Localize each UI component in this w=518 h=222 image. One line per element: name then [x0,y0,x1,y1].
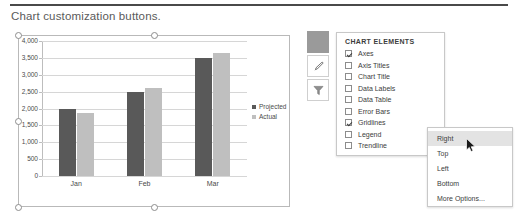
panel-title: CHART ELEMENTS [337,33,444,48]
submenu-item-bottom[interactable]: Bottom [428,176,512,191]
chart-element-item-data-table[interactable]: Data Table [345,94,444,106]
chart-element-label: Error Bars [358,108,390,115]
chart-element-item-axis-titles[interactable]: Axis Titles [345,60,444,72]
checkbox[interactable] [345,85,352,92]
top-divider [10,4,508,6]
bar-projected[interactable] [59,109,76,177]
y-axis-tick-label: 3,000 [22,72,38,79]
y-axis-tick-label: 0 [34,173,38,180]
funnel-icon [312,84,325,97]
screenshot-root: Chart customization buttons. 05001,0001,… [0,0,518,222]
y-axis-tick-label: 2,500 [22,88,38,95]
x-axis-label: Mar [179,180,247,187]
chart-customization-buttons [307,31,329,103]
chart-legend[interactable]: ProjectedActual [252,103,286,123]
chart-element-label: Gridlines [358,119,386,126]
chart-styles-button[interactable] [307,55,329,77]
chart-element-item-data-labels[interactable]: Data Labels [345,83,444,95]
chart-element-label: Data Labels [358,85,395,92]
y-axis-tick-label: 1,000 [22,139,38,146]
resize-handle-top-left[interactable] [15,32,22,39]
chart-element-item-error-bars[interactable]: Error Bars [345,106,444,118]
y-axis-tick-label: 4,000 [22,38,38,45]
legend-label: Actual [259,113,277,120]
resize-handle-middle-left[interactable] [15,118,22,125]
chart-plot-area[interactable]: 05001,0001,5002,0002,5003,0003,5004,000 … [42,41,247,176]
chart-element-label: Trendline [358,142,387,149]
y-axis-tick-label: 3,500 [22,55,38,62]
resize-handle-bottom-left[interactable] [15,204,22,211]
mouse-cursor-icon [466,138,477,154]
resize-handle-bottom-center[interactable] [151,204,158,211]
x-axis-label: Feb [110,180,178,187]
chart-element-label: Axes [358,50,374,57]
chart-element-label: Axis Titles [358,62,390,69]
chart-element-label: Chart Title [358,73,390,80]
chart-element-item-axes[interactable]: Axes [345,48,444,60]
bar-group[interactable] [195,41,230,176]
page-title: Chart customization buttons. [11,10,161,22]
bar-projected[interactable] [195,58,212,176]
chart-element-label: Legend [358,131,381,138]
chart-element-item-chart-title[interactable]: Chart Title [345,71,444,83]
submenu-item-more-options[interactable]: More Options... [428,191,512,206]
bar-group[interactable] [59,41,94,176]
bar-group[interactable] [127,41,162,176]
bar-actual[interactable] [77,113,94,176]
checkbox[interactable] [345,108,352,115]
legend-label: Projected [259,103,286,110]
bar-actual[interactable] [213,53,230,176]
y-axis-tick-label: 2,000 [22,105,38,112]
checkbox[interactable] [345,96,352,103]
checkbox[interactable] [345,50,352,57]
legend-swatch [252,115,256,119]
brush-icon [312,60,325,73]
bar-series-layer [42,41,247,176]
y-axis-tick-mark [39,176,42,177]
y-axis-tick-label: 1,500 [22,122,38,129]
x-axis-label: Jan [42,180,110,187]
submenu-item-left[interactable]: Left [428,161,512,176]
checkbox[interactable] [345,62,352,69]
chart-elements-button[interactable] [307,31,329,53]
checkbox[interactable] [345,73,352,80]
gridline [42,176,247,177]
legend-swatch [252,105,256,109]
checkbox[interactable] [345,131,352,138]
chart-filters-button[interactable] [307,79,329,101]
resize-handle-top-center[interactable] [151,32,158,39]
chart-element-label: Data Table [358,96,391,103]
legend-item[interactable]: Projected [252,103,286,110]
checkbox[interactable] [345,142,352,149]
y-axis-tick-label: 500 [27,156,38,163]
bar-projected[interactable] [127,92,144,176]
checkbox[interactable] [345,119,352,126]
bar-actual[interactable] [145,88,162,176]
legend-item[interactable]: Actual [252,113,286,120]
